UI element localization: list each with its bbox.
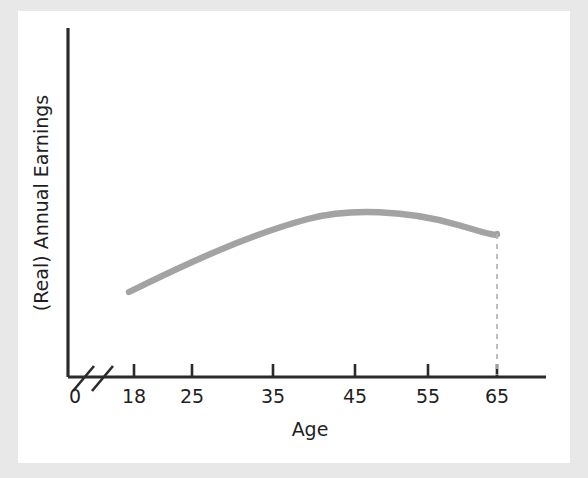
age-earnings-chart: 0 18 25 35 45 55 65 Age (Real) Annual Ea… — [18, 11, 570, 463]
x-tick-label-65: 65 — [485, 385, 509, 407]
x-tick-label-0: 0 — [69, 385, 81, 407]
earnings-curve-path — [129, 212, 497, 292]
x-axis-title: Age — [292, 418, 329, 440]
x-tick-label-25: 25 — [180, 385, 204, 407]
plot-canvas: 0 18 25 35 45 55 65 Age (Real) Annual Ea… — [18, 11, 570, 463]
figure-frame: 0 18 25 35 45 55 65 Age (Real) Annual Ea… — [0, 0, 588, 478]
x-tick-label-55: 55 — [416, 385, 440, 407]
x-tick-label-18: 18 — [122, 385, 146, 407]
x-tick-label-35: 35 — [261, 385, 285, 407]
y-axis-title: (Real) Annual Earnings — [30, 95, 52, 311]
x-tick-label-45: 45 — [343, 385, 367, 407]
